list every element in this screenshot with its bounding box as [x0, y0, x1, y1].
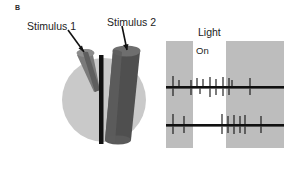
- light-off-band-2: [226, 41, 284, 148]
- stimulus-bar: [99, 55, 104, 144]
- recording-panel: [166, 41, 284, 148]
- light-off-band-1: [166, 41, 193, 148]
- figure-graphics: [0, 0, 291, 171]
- receptive-field-diagram: [62, 26, 146, 145]
- figure-panel-b: B Stimulus 1 Stimulus 2 Light Off On Off: [0, 0, 291, 171]
- stimulus-1-arrow: [68, 30, 84, 52]
